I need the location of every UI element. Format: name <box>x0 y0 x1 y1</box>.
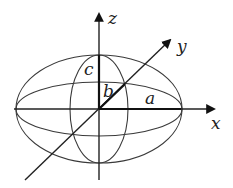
semi-axis-a-label: a <box>145 88 155 108</box>
x-axis-label: x <box>211 113 221 133</box>
ellipsoid-diagram: z y x c b a <box>0 0 233 188</box>
semi-axis-c-label: c <box>84 59 94 79</box>
z-axis-label: z <box>107 8 118 28</box>
semi-axis-b-label: b <box>103 81 114 101</box>
y-axis-label: y <box>176 36 187 56</box>
